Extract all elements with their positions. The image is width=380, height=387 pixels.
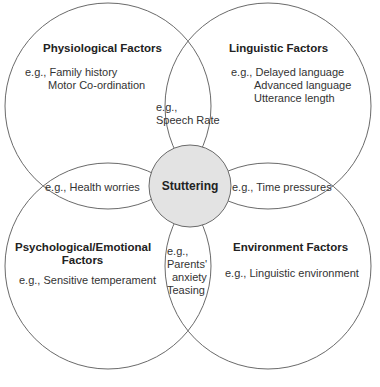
linguistic-title: Linguistic Factors: [229, 41, 328, 55]
overlap-right: e.g., Time pressures: [232, 180, 332, 194]
physiological-example-1: e.g., Family history: [25, 65, 117, 79]
environment-example-1: e.g., Linguistic environment: [225, 266, 359, 280]
linguistic-example-3: Utterance length: [254, 91, 335, 105]
overlap-bottom-line-2: Parents': [167, 257, 207, 271]
overlap-bottom-line-1: e.g.,: [167, 244, 188, 258]
stuttering-label: Stuttering: [150, 179, 230, 193]
linguistic-example-2: Advanced language: [254, 78, 351, 92]
psychological-title-line-2: Factors: [15, 253, 150, 267]
overlap-left: e.g., Health worries: [45, 180, 140, 194]
psychological-title-line-1: Psychological/Emotional: [15, 240, 150, 254]
overlap-bottom-line-4: Teasing: [167, 283, 205, 297]
overlap-top-line-1: e.g.,: [156, 100, 177, 114]
overlap-bottom-line-3: anxiety: [172, 270, 207, 284]
psychological-example-1: e.g., Sensitive temperament: [19, 273, 156, 287]
physiological-example-2: Motor Co-ordination: [48, 78, 145, 92]
environment-title: Environment Factors: [233, 240, 348, 254]
overlap-top-line-2: Speech Rate: [156, 113, 220, 127]
linguistic-example-1: e.g., Delayed language: [231, 65, 344, 79]
physiological-title: Physiological Factors: [43, 41, 162, 55]
